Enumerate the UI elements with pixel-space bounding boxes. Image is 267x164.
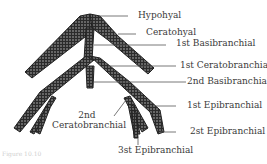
label-1st-ceratobranchial: 1st Ceratobranchial: [180, 60, 267, 70]
basibranchial-1: [84, 28, 94, 60]
hyobranchial-diagram: Hypohyal Ceratohyal 1st Basibranchial 1s…: [0, 0, 267, 164]
basibranchial-2: [86, 66, 94, 88]
label-2nd-ceratobranchial: 2nd Ceratobranchial: [52, 110, 122, 130]
label-1st-epibranchial: 1st Epibranchial: [187, 100, 262, 110]
figure-caption: Figure 10.10: [2, 150, 41, 157]
label-3st-epibranchial: 3st Epibranchial: [118, 145, 193, 155]
label-hypohyal: Hypohyal: [138, 10, 181, 20]
label-ceratohyal: Ceratohyal: [146, 27, 196, 37]
label-2st-epibranchial: 2st Epibranchial: [190, 126, 265, 136]
label-1st-basibranchial: 1st Basibranchial: [176, 38, 255, 48]
label-2nd-basibranchial: 2nd Basibranchial: [187, 76, 267, 86]
